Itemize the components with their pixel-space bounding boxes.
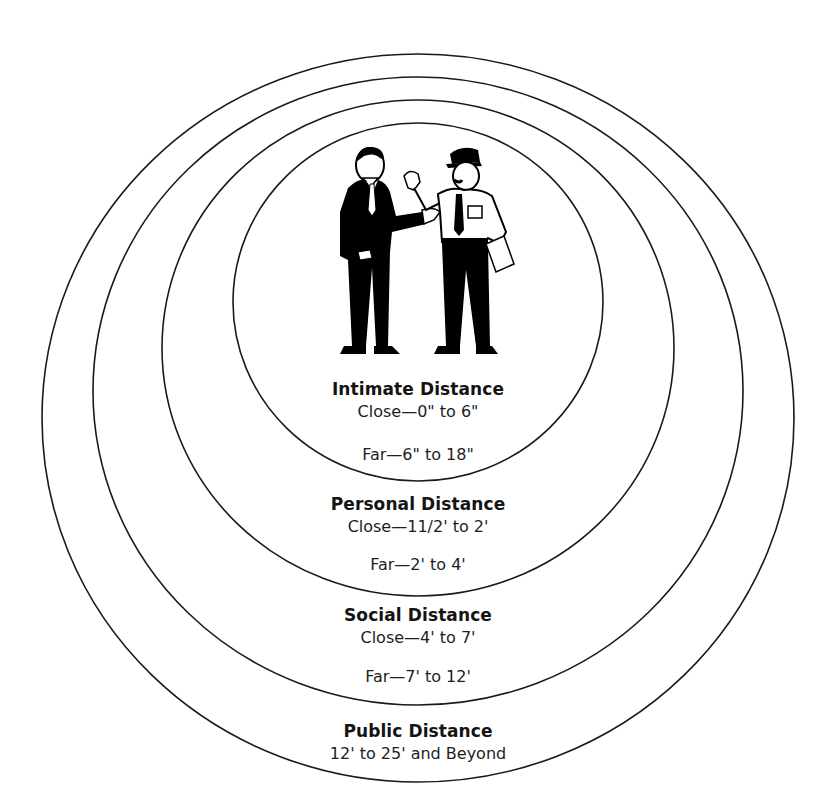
intimate-distance-far-range: Far—6" to 18" — [0, 447, 824, 463]
social-distance-far-range: Far—7' to 12' — [0, 669, 824, 685]
intimate-distance-title: Intimate Distance — [0, 381, 824, 398]
police-officer-figure — [404, 148, 514, 354]
personal-distance-title: Personal Distance — [0, 496, 824, 513]
personal-distance-far-range: Far—2' to 4' — [0, 557, 824, 573]
man-in-suit-figure — [340, 147, 440, 354]
social-distance-title: Social Distance — [0, 607, 824, 624]
personal-distance-close-range: Close—11/2' to 2' — [0, 519, 824, 535]
two-people-conversation-illustration — [330, 140, 520, 372]
public-distance-title: Public Distance — [0, 723, 824, 740]
social-distance-close-range: Close—4' to 7' — [0, 630, 824, 646]
public-distance-range: 12' to 25' and Beyond — [0, 746, 824, 762]
intimate-distance-close-range: Close—0" to 6" — [0, 404, 824, 420]
